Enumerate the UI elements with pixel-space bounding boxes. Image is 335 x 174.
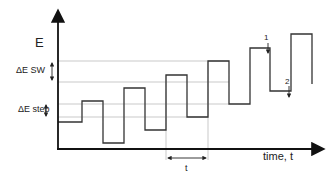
guide-lines <box>58 61 229 160</box>
x-axis-label: time, t <box>263 151 293 162</box>
delta-e-step-label: ΔE step <box>18 105 50 114</box>
marker-2-label: 2 <box>285 78 289 86</box>
marker-1-label: 1 <box>264 34 268 42</box>
y-axis-label: E <box>35 36 44 49</box>
period-label: t <box>185 164 188 173</box>
waveform <box>58 34 312 143</box>
square-wave-diagram <box>0 0 335 174</box>
delta-e-sw-label: ΔE SW <box>16 66 45 75</box>
